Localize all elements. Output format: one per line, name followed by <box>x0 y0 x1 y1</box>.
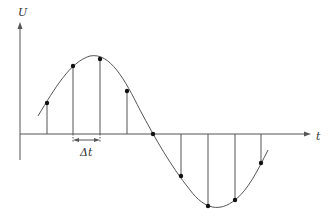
x-axis-label: t <box>316 130 321 143</box>
y-axis-arrow-icon <box>18 22 23 29</box>
delta-t-right-arrow-icon <box>94 138 100 142</box>
x-axis-arrow-icon <box>304 132 311 137</box>
y-axis-label: U <box>18 6 28 19</box>
delta-t-label: Δt <box>79 146 93 159</box>
sine-sampling-diagram: U t Δt <box>0 0 333 219</box>
delta-t-left-arrow-icon <box>73 138 79 142</box>
sample-points <box>45 57 263 208</box>
